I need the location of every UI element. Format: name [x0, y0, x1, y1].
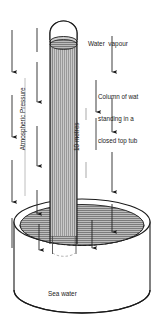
label-column-description: Column of wat standing in a closed top t…: [98, 78, 138, 160]
water-column-diagram: [0, 0, 163, 327]
label-water-vapour: Water vapour: [88, 40, 128, 48]
tube-water-top-surface: [50, 40, 77, 50]
label-atmospheric-pressure: Atmospheric Pressure: [19, 84, 27, 154]
diagram-canvas: Water vapour Column of wat standing in a…: [0, 0, 163, 327]
sea-water-vessel: [14, 199, 150, 313]
label-column-line-2: standing in a: [98, 115, 138, 122]
label-column-line-3: closed top tub: [98, 137, 138, 144]
label-sea-water: Sea water: [48, 290, 77, 298]
label-column-line-1: Column of wat: [98, 93, 138, 100]
label-ten-metres: 10 metres: [73, 117, 81, 157]
